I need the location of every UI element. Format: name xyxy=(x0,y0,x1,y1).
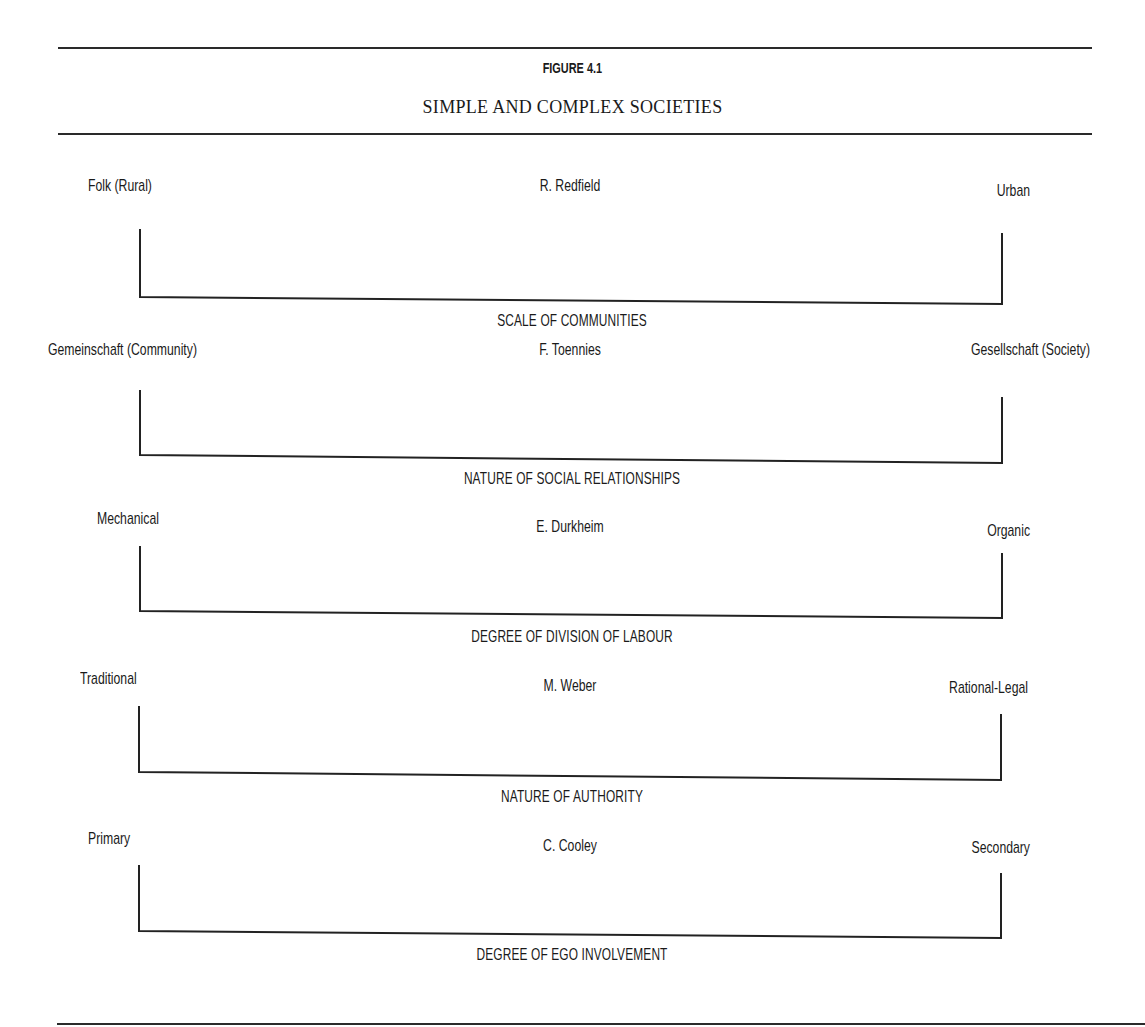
dimension-caption: DEGREE OF EGO INVOLVEMENT xyxy=(397,945,747,965)
